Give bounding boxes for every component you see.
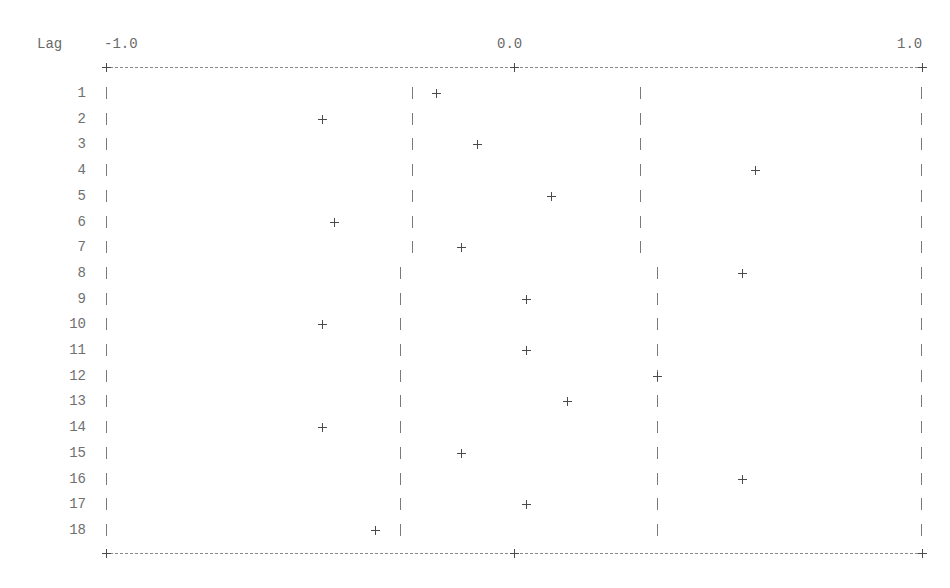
frame-bottom-border-tick-2 [918, 549, 927, 558]
lag-label: 9 [56, 292, 86, 306]
frame-left-edge [106, 241, 107, 253]
frame-right-edge [921, 524, 922, 536]
x-tick-max: 1.0 [897, 37, 922, 51]
confidence-band-lower [400, 370, 401, 382]
lag-label: 13 [56, 394, 86, 408]
frame-right-edge [921, 421, 922, 433]
frame-left-edge [106, 113, 107, 125]
frame-right-edge [921, 190, 922, 202]
frame-right-edge [921, 267, 922, 279]
confidence-band-lower [412, 138, 413, 150]
confidence-band-lower [400, 344, 401, 356]
data-point-lag-3 [473, 140, 482, 149]
frame-left-edge [106, 421, 107, 433]
confidence-band-upper [657, 344, 658, 356]
frame-right-edge [921, 498, 922, 510]
confidence-band-lower [400, 473, 401, 485]
confidence-band-upper [657, 473, 658, 485]
frame-right-edge [921, 370, 922, 382]
lag-label: 2 [56, 112, 86, 126]
confidence-band-upper [657, 498, 658, 510]
frame-bottom-border-tick-0 [102, 549, 111, 558]
confidence-band-lower [400, 318, 401, 330]
frame-left-edge [106, 267, 107, 279]
data-point-lag-16 [738, 475, 747, 484]
confidence-band-upper [640, 190, 641, 202]
frame-top-border-tick-2 [918, 63, 927, 72]
confidence-band-upper [657, 395, 658, 407]
frame-left-edge [106, 370, 107, 382]
lag-label: 6 [56, 215, 86, 229]
frame-right-edge [921, 241, 922, 253]
frame-right-edge [921, 113, 922, 125]
data-point-lag-6 [330, 218, 339, 227]
lag-label: 12 [56, 369, 86, 383]
confidence-band-lower [412, 87, 413, 99]
x-tick-mid: 0.0 [497, 37, 522, 51]
frame-left-edge [106, 395, 107, 407]
confidence-band-upper [657, 421, 658, 433]
frame-right-edge [921, 318, 922, 330]
lag-label: 1 [56, 86, 86, 100]
confidence-band-upper [657, 293, 658, 305]
frame-right-edge [921, 473, 922, 485]
data-point-lag-17 [522, 500, 531, 509]
data-point-lag-7 [457, 243, 466, 252]
frame-left-edge [106, 293, 107, 305]
confidence-band-lower [400, 421, 401, 433]
lag-label: 3 [56, 137, 86, 151]
lag-label: 18 [56, 523, 86, 537]
frame-top-border-tick-1 [510, 63, 519, 72]
confidence-band-lower [412, 164, 413, 176]
lag-label: 11 [56, 343, 86, 357]
data-point-lag-4 [751, 166, 760, 175]
confidence-band-lower [400, 293, 401, 305]
data-point-lag-5 [547, 192, 556, 201]
frame-bottom-border-tick-1 [510, 549, 519, 558]
frame-left-edge [106, 344, 107, 356]
confidence-band-lower [412, 190, 413, 202]
confidence-band-lower [400, 395, 401, 407]
data-point-lag-10 [318, 320, 327, 329]
lag-label: 10 [56, 317, 86, 331]
confidence-band-upper [640, 113, 641, 125]
lag-label: 15 [56, 446, 86, 460]
frame-right-edge [921, 447, 922, 459]
lag-label: 8 [56, 266, 86, 280]
confidence-band-upper [657, 267, 658, 279]
confidence-band-upper [640, 216, 641, 228]
data-point-lag-11 [522, 346, 531, 355]
frame-left-edge [106, 216, 107, 228]
data-point-lag-14 [318, 423, 327, 432]
data-point-lag-1 [432, 89, 441, 98]
x-tick-min: -1.0 [104, 37, 138, 51]
lag-label: 16 [56, 472, 86, 486]
frame-right-edge [921, 138, 922, 150]
data-point-lag-15 [457, 449, 466, 458]
confidence-band-upper [640, 164, 641, 176]
lag-label: 14 [56, 420, 86, 434]
frame-left-edge [106, 447, 107, 459]
lag-label: 5 [56, 189, 86, 203]
frame-top-border-tick-0 [102, 63, 111, 72]
confidence-band-upper [640, 87, 641, 99]
frame-right-edge [921, 87, 922, 99]
lag-label: 17 [56, 497, 86, 511]
frame-right-edge [921, 216, 922, 228]
frame-right-edge [921, 164, 922, 176]
lag-label: 7 [56, 240, 86, 254]
confidence-band-lower [412, 241, 413, 253]
frame-left-edge [106, 498, 107, 510]
frame-left-edge [106, 190, 107, 202]
confidence-band-upper [640, 241, 641, 253]
frame-right-edge [921, 293, 922, 305]
frame-left-edge [106, 473, 107, 485]
confidence-band-upper [640, 138, 641, 150]
confidence-band-lower [400, 447, 401, 459]
confidence-band-lower [400, 267, 401, 279]
confidence-band-upper [657, 524, 658, 536]
data-point-lag-12 [653, 372, 662, 381]
confidence-band-upper [657, 447, 658, 459]
confidence-band-lower [412, 113, 413, 125]
confidence-band-lower [400, 524, 401, 536]
